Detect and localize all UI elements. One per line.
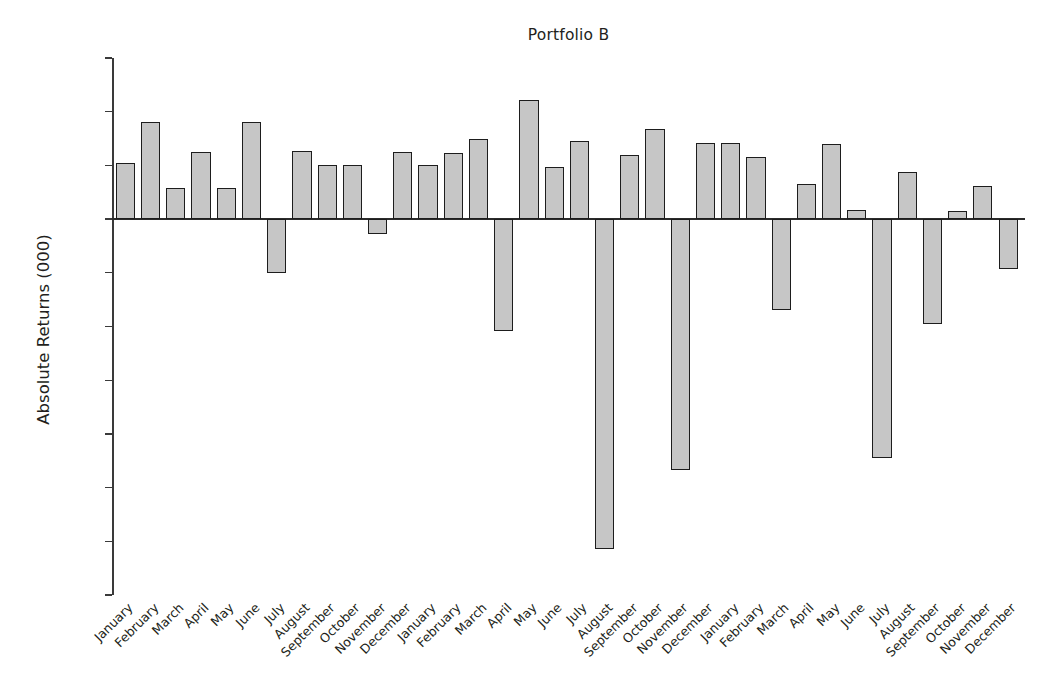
y-tick-mark	[105, 111, 112, 112]
chart-title: Portfolio B	[112, 26, 1025, 44]
bar	[847, 210, 866, 219]
y-tick-mark	[105, 326, 112, 327]
bar	[696, 143, 715, 220]
bar	[166, 188, 185, 219]
bar	[999, 219, 1018, 269]
bar	[923, 219, 942, 324]
bar	[191, 152, 210, 219]
y-tick-mark	[105, 541, 112, 542]
bar	[217, 188, 236, 219]
bar	[822, 144, 841, 219]
bar	[368, 219, 387, 234]
bar	[444, 153, 463, 219]
y-tick-mark	[105, 594, 112, 595]
chart-figure: Portfolio B Absolute Returns (000) 60040…	[0, 0, 1047, 682]
bar	[267, 219, 286, 273]
y-tick-mark	[105, 433, 112, 434]
bar	[948, 211, 967, 219]
bar	[141, 122, 160, 219]
y-tick-mark	[105, 165, 112, 166]
bar	[292, 151, 311, 219]
bar	[595, 219, 614, 549]
bar	[242, 122, 261, 219]
plot-area: 6004002000−200−400−600−800−1000−1200−140…	[112, 58, 1025, 595]
bar	[645, 129, 664, 219]
bar	[898, 172, 917, 219]
bar	[469, 139, 488, 220]
y-axis-line	[112, 58, 114, 595]
bar	[772, 219, 791, 310]
y-tick-mark	[105, 57, 112, 58]
bar	[116, 163, 135, 219]
bar	[797, 184, 816, 219]
bar	[545, 167, 564, 219]
bar	[318, 165, 337, 219]
bar	[746, 157, 765, 219]
bar	[671, 219, 690, 470]
bar	[343, 165, 362, 219]
bar	[973, 186, 992, 220]
bar	[418, 165, 437, 219]
bar	[494, 219, 513, 330]
y-axis-label: Absolute Returns (000)	[34, 120, 53, 540]
bar	[519, 100, 538, 219]
bar	[570, 141, 589, 219]
bar	[872, 219, 891, 458]
y-tick-mark	[105, 380, 112, 381]
y-tick-mark	[105, 487, 112, 488]
bar	[393, 152, 412, 219]
bar	[721, 143, 740, 220]
y-tick-mark	[105, 272, 112, 273]
bar	[620, 155, 639, 219]
y-tick-mark	[105, 218, 112, 219]
